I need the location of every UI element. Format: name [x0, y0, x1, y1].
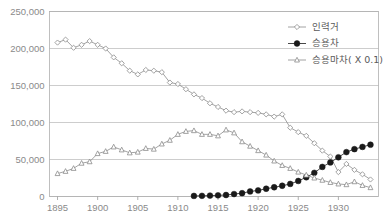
data-point-marker	[199, 193, 205, 199]
series-3	[55, 127, 373, 189]
data-point-marker	[256, 148, 261, 153]
x-tick-label: 1930	[328, 202, 349, 213]
chart-legend: 인력거승용차승용마차( X 0.1)	[288, 21, 383, 65]
data-point-marker	[239, 109, 244, 114]
legend-label: 승용마차( X 0.1)	[312, 54, 383, 65]
data-point-marker	[151, 68, 156, 73]
data-point-marker	[296, 130, 301, 135]
x-tick-label: 1920	[248, 202, 269, 213]
x-axis-ticks	[58, 197, 339, 201]
data-point-marker	[352, 179, 357, 184]
data-point-marker	[159, 141, 164, 146]
data-point-marker	[368, 177, 373, 182]
data-point-marker	[191, 193, 197, 199]
data-point-marker	[280, 163, 285, 168]
x-tick-label: 1895	[47, 202, 68, 213]
data-point-marker	[135, 72, 140, 77]
y-tick-label: 250,000	[10, 6, 44, 17]
data-point-marker	[87, 39, 92, 44]
data-point-marker	[255, 188, 261, 194]
data-point-marker	[183, 87, 188, 92]
data-point-marker	[319, 164, 325, 170]
data-point-marker	[223, 108, 228, 113]
data-point-marker	[248, 110, 253, 115]
legend-item[interactable]: 승용마차( X 0.1)	[288, 54, 383, 65]
data-point-marker	[199, 95, 204, 100]
data-point-marker	[191, 92, 196, 97]
data-point-marker	[239, 190, 245, 196]
data-point-marker	[360, 144, 366, 150]
data-point-marker	[223, 192, 229, 198]
data-point-marker	[279, 183, 285, 189]
data-point-marker	[207, 101, 212, 106]
x-tick-label: 1905	[127, 202, 148, 213]
data-point-marker	[248, 143, 253, 148]
x-tick-label: 1900	[87, 202, 108, 213]
data-point-marker	[231, 110, 236, 115]
data-point-marker	[263, 186, 269, 192]
data-point-marker	[55, 40, 60, 45]
data-point-marker	[95, 42, 100, 47]
data-point-marker	[167, 138, 172, 143]
data-point-marker	[215, 192, 221, 198]
series-line	[58, 130, 371, 188]
y-axis-tick-labels: 050,000100,000150,000200,000250,000	[10, 6, 44, 202]
data-point-marker	[207, 193, 213, 199]
data-point-marker	[272, 114, 277, 119]
data-point-marker	[368, 142, 374, 148]
data-point-marker	[272, 158, 277, 163]
line-chart: 050,000100,000150,000200,000250,000 1895…	[0, 0, 388, 224]
data-point-marker	[231, 191, 237, 197]
data-point-marker	[344, 149, 350, 155]
x-tick-label: 1910	[167, 202, 188, 213]
y-tick-label: 100,000	[10, 117, 44, 128]
data-point-marker	[79, 42, 84, 47]
data-point-marker	[295, 178, 301, 184]
data-point-marker	[352, 146, 358, 152]
data-point-marker	[71, 166, 76, 171]
x-tick-label: 1915	[207, 202, 228, 213]
legend-label: 승용차	[312, 37, 339, 48]
data-point-marker	[335, 154, 341, 160]
data-point-marker	[294, 24, 299, 29]
chart-container: 050,000100,000150,000200,000250,000 1895…	[0, 0, 388, 224]
data-point-marker	[103, 149, 108, 154]
data-point-marker	[360, 183, 365, 188]
data-point-marker	[264, 112, 269, 117]
legend-label: 인력거	[312, 21, 339, 32]
data-point-marker	[143, 146, 148, 151]
data-point-marker	[296, 169, 301, 174]
data-point-marker	[294, 41, 300, 47]
data-point-marker	[288, 125, 293, 130]
data-point-marker	[247, 189, 253, 195]
data-point-marker	[264, 152, 269, 157]
y-tick-label: 50,000	[15, 154, 44, 165]
data-point-marker	[135, 149, 140, 154]
data-point-marker	[280, 112, 285, 117]
series-2	[191, 142, 373, 199]
data-point-marker	[271, 184, 277, 190]
data-point-marker	[327, 160, 333, 166]
data-point-marker	[192, 128, 197, 133]
data-point-marker	[256, 110, 261, 115]
legend-item[interactable]: 승용차	[288, 37, 339, 48]
legend-item[interactable]: 인력거	[288, 21, 339, 32]
data-point-marker	[111, 144, 116, 149]
data-point-marker	[143, 67, 148, 72]
y-tick-label: 0	[39, 191, 44, 202]
data-point-marker	[287, 181, 293, 187]
y-tick-label: 200,000	[10, 43, 44, 54]
data-point-marker	[360, 172, 365, 177]
x-tick-label: 1925	[288, 202, 309, 213]
x-axis-tick-labels: 18951900190519101915192019251930	[47, 202, 349, 213]
data-point-marker	[215, 104, 220, 109]
data-point-marker	[224, 127, 229, 132]
y-tick-label: 150,000	[10, 80, 44, 91]
